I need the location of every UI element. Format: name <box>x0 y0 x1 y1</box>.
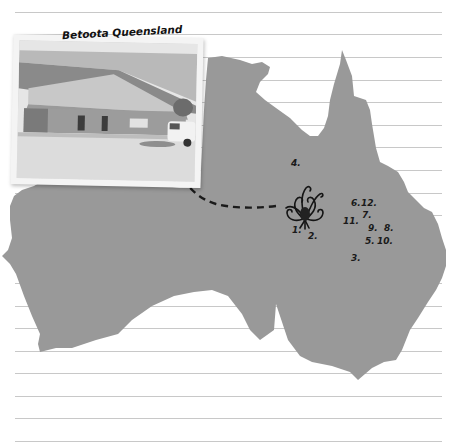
map-marker-1[interactable]: 1. <box>292 225 302 235</box>
map-marker-8[interactable]: 8. <box>384 223 394 233</box>
map-marker-9[interactable]: 9. <box>368 223 378 233</box>
map-marker-10[interactable]: 10. <box>377 236 393 246</box>
map-marker-7[interactable]: 7. <box>362 210 372 220</box>
building-photo-illustration <box>17 40 198 182</box>
betoota-photo <box>10 34 203 188</box>
map-marker-4[interactable]: 4. <box>291 158 301 168</box>
map-marker-3[interactable]: 3. <box>351 253 361 263</box>
map-marker-11[interactable]: 11. <box>343 216 359 226</box>
photo-image <box>17 40 198 182</box>
map-marker-2[interactable]: 2. <box>308 231 318 241</box>
map-marker-5[interactable]: 5. <box>365 236 375 246</box>
map-marker-6[interactable]: 6. <box>351 198 361 208</box>
notebook-page: Betoota Queensland 1. 2. 3. 4. 5. 6. 7. … <box>0 0 461 448</box>
map-marker-12[interactable]: 12. <box>361 198 377 208</box>
